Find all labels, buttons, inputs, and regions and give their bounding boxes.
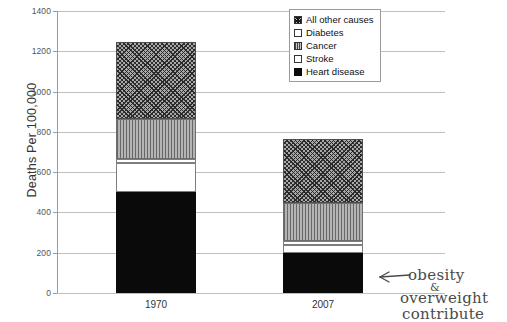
bar-1970 <box>116 11 196 293</box>
white-swatch <box>294 29 302 37</box>
y-axis-tick-label: 400 <box>5 207 51 217</box>
bar-segment-heart-disease <box>116 192 196 293</box>
legend-item-label: All other causes <box>306 14 374 25</box>
legend-item-diabetes[interactable]: Diabetes <box>294 26 374 39</box>
y-axis-tick-label: 0 <box>5 288 51 298</box>
bar-segment-all-other-causes <box>116 42 196 119</box>
x-axis-tick-label: 2007 <box>278 299 368 310</box>
stacked-bar-chart: Deaths Per 100,000 020040060080010001200… <box>0 0 507 322</box>
white-swatch <box>294 55 302 63</box>
legend-item-heart-disease[interactable]: Heart disease <box>294 65 374 78</box>
bar-segment-diabetes <box>116 159 196 163</box>
bar-segment-stroke <box>116 163 196 192</box>
legend-item-label: Diabetes <box>306 27 344 38</box>
legend-item-all-other-causes[interactable]: All other causes <box>294 13 374 26</box>
bar-segment-all-other-causes <box>283 139 363 203</box>
legend-item-label: Cancer <box>306 40 337 51</box>
bar-segment-cancer <box>283 203 363 240</box>
y-axis-tick-label: 1200 <box>5 46 51 56</box>
y-axis-tick-label: 600 <box>5 167 51 177</box>
legend-item-label: Stroke <box>306 53 333 64</box>
bar-segment-diabetes <box>283 241 363 245</box>
y-axis-title: Deaths Per 100,000 <box>25 60 43 220</box>
gridline <box>57 293 445 294</box>
y-axis-tick-label: 200 <box>5 248 51 258</box>
crosshatch-swatch <box>294 16 302 24</box>
vertical-lines-swatch <box>294 42 302 50</box>
legend: All other causesDiabetesCancerStrokeHear… <box>289 9 381 82</box>
black-swatch <box>294 68 302 76</box>
plot-area <box>57 11 445 293</box>
legend-item-cancer[interactable]: Cancer <box>294 39 374 52</box>
bar-segment-cancer <box>116 119 196 159</box>
legend-item-label: Heart disease <box>306 66 365 77</box>
legend-item-stroke[interactable]: Stroke <box>294 52 374 65</box>
y-axis-line <box>57 11 58 293</box>
y-axis-tick-label: 1400 <box>5 6 51 16</box>
y-axis-tick-label: 1000 <box>5 87 51 97</box>
bar-segment-stroke <box>283 245 363 253</box>
x-axis-tick-label: 1970 <box>111 299 201 310</box>
annotation-line-4: contribute <box>402 305 484 322</box>
y-axis-tick-label: 800 <box>5 127 51 137</box>
bar-segment-heart-disease <box>283 253 363 293</box>
